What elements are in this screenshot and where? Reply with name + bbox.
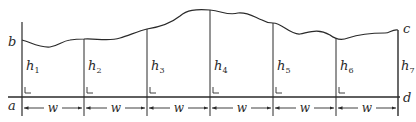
ordinate-label-h7: h7 (401, 58, 414, 75)
interval-label-2: w (111, 101, 122, 115)
corner-label-c: c (403, 21, 411, 36)
interval-label-6: w (362, 101, 373, 115)
ordinate-label-h3: h3 (151, 58, 164, 75)
corner-label-d: d (403, 90, 411, 105)
interval-label-5: w (300, 101, 311, 115)
corner-label-b: b (8, 34, 16, 49)
right-angle-markers (25, 87, 345, 93)
interval-label-3: w (174, 101, 185, 115)
trapezoid-strip-diagram: w w w w w w b a c d h1 h2 h3 h4 h5 h6 h7 (0, 0, 416, 122)
ordinate-label-h2: h2 (88, 58, 101, 75)
ordinate-label-h6: h6 (340, 58, 353, 75)
ordinate-label-h1: h1 (26, 58, 39, 75)
interval-label-1: w (48, 101, 59, 115)
ordinate-label-h4: h4 (214, 58, 227, 75)
interval-label-4: w (237, 101, 248, 115)
ordinate-label-h5: h5 (277, 58, 290, 75)
corner-label-a: a (8, 98, 16, 113)
